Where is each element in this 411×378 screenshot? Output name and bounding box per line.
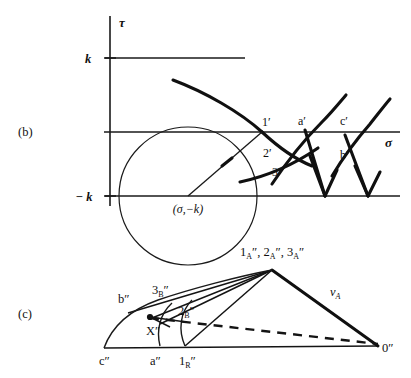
label-X-double-prime: X″ [146, 324, 160, 338]
label-1-prime: 1′ [262, 115, 271, 129]
label-1R: 1R″ [179, 354, 196, 370]
apex-to-1R [185, 270, 272, 346]
apex-label: 1A″, 2A″, 3A″ [240, 245, 304, 261]
chevron-left-b [355, 166, 368, 196]
panel-b-group: (b) τ σ k − k (σ,−k) 1′ a′ c′ 2′ 3′ b′ [18, 15, 400, 265]
label-a-double-prime: a″ [150, 354, 161, 368]
apex-to-a [160, 270, 272, 324]
chevron-right-b [368, 172, 380, 196]
panel-c-tag: (c) [18, 307, 32, 321]
apex-to-X [152, 270, 272, 318]
tau-axis-label: τ [119, 15, 126, 30]
label-2-prime: 2′ [263, 146, 272, 160]
hodograph-baseline [104, 346, 378, 348]
tick-label-neg-k: − k [76, 190, 94, 204]
velocity-vector-vA [272, 270, 378, 346]
label-0-double-prime: 0″ [382, 341, 393, 355]
label-3B: 3B″ [152, 283, 169, 299]
label-b-prime: b′ [340, 148, 349, 162]
slipline-curve-c [332, 99, 390, 176]
figure-container: (b) τ σ k − k (σ,−k) 1′ a′ c′ 2′ 3′ b′ [0, 0, 411, 378]
technical-diagram: (b) τ σ k − k (σ,−k) 1′ a′ c′ 2′ 3′ b′ [0, 0, 411, 378]
panel-c-group: (c) 1A″, 2A″, 3A″ 3B″ 2B″ b″ X″ c″ a″ 1R… [18, 245, 393, 370]
label-3-prime: 3′ [272, 165, 281, 179]
centre-ray-arrow [222, 158, 232, 166]
label-a-prime: a′ [298, 114, 306, 128]
circle-centre-label: (σ,−k) [173, 202, 203, 216]
label-vA: vA [330, 285, 341, 301]
tick-label-k: k [85, 52, 92, 66]
panel-b-tag: (b) [18, 125, 33, 139]
chevron-right-a [325, 170, 337, 196]
slipline-curve-1 [173, 80, 262, 132]
chevron-left-a [310, 156, 325, 196]
sigma-axis-label: σ [385, 135, 393, 150]
label-b-double-prime: b″ [118, 292, 129, 306]
label-c-double-prime: c″ [99, 354, 110, 368]
label-c-prime: c′ [340, 114, 348, 128]
apex-to-b [128, 270, 272, 313]
